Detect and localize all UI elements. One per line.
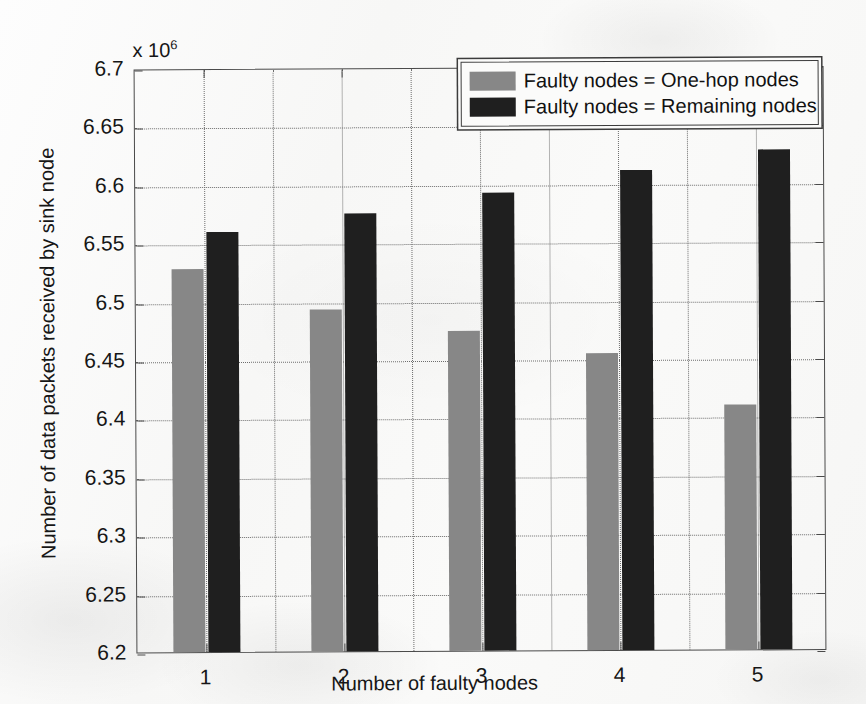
y-axis-tick-mark: [137, 654, 145, 655]
y-axis-exponent: x 106: [132, 37, 177, 62]
x-axis-tick-label: 4: [579, 663, 659, 687]
x-axis-tick-label: 5: [717, 662, 797, 686]
chart-canvas: x 106 Number of data packets received by…: [0, 0, 866, 704]
y-axis-tick-mark: [137, 538, 145, 539]
y-axis-tick-label: 6.7: [52, 56, 124, 80]
y-axis-tick-mark: [137, 479, 145, 480]
y-axis-tick-mark: [136, 362, 144, 363]
y-axis-tick-mark: [135, 187, 143, 188]
y-axis-tick-mark: [816, 359, 824, 360]
y-axis-tick-mark: [815, 242, 823, 243]
y-axis-tick-mark: [817, 593, 825, 594]
x-axis-tick-labels: 12345: [0, 0, 864, 2]
bar: [344, 213, 378, 651]
x-axis-tick-label: 1: [165, 665, 245, 689]
legend: Faulty nodes = One-hop nodes Faulty node…: [461, 60, 819, 127]
gridline-horizontal: [136, 417, 824, 421]
bar: [757, 149, 791, 649]
y-axis-tick-mark: [815, 184, 823, 185]
x-axis-tick-mark: [204, 70, 205, 78]
legend-label-one-hop-nodes: Faulty nodes = One-hop nodes: [524, 69, 799, 90]
y-axis-tick-mark: [815, 125, 823, 126]
bar: [206, 231, 240, 652]
y-axis-tick-label: 6.5: [53, 290, 125, 314]
y-axis-tick-mark: [816, 301, 824, 302]
bar: [585, 353, 618, 650]
gridline-horizontal: [135, 184, 823, 188]
gridline-horizontal: [137, 476, 825, 480]
y-axis-exponent-power: 6: [170, 37, 177, 52]
y-axis-tick-mark: [136, 304, 144, 305]
y-axis-tick-mark: [816, 417, 824, 418]
x-axis-tick-mark: [342, 69, 343, 77]
y-axis-tick-label: 6.55: [52, 232, 124, 256]
y-axis-tick-label: 6.3: [54, 524, 126, 548]
y-axis-tick-mark: [817, 534, 825, 535]
y-axis-tick-label: 6.65: [52, 115, 124, 139]
y-axis-tick-mark: [135, 246, 143, 247]
bar: [620, 170, 654, 650]
x-axis-tick-label: 2: [303, 664, 383, 688]
y-axis-tick-label: 6.45: [53, 348, 125, 372]
legend-item-1: Faulty nodes = Remaining nodes: [470, 92, 810, 120]
y-axis-tick-mark: [137, 596, 145, 597]
plot-area: [134, 66, 827, 653]
bar: [447, 331, 481, 651]
legend-label-remaining-nodes: Faulty nodes = Remaining nodes: [524, 95, 817, 116]
legend-swatch-one-hop-nodes: [470, 71, 516, 90]
bar: [724, 404, 757, 649]
bar: [309, 309, 343, 651]
y-axis-tick-label: 6.4: [53, 407, 125, 431]
legend-item-0: Faulty nodes = One-hop nodes: [470, 66, 810, 94]
y-axis-tick-mark: [136, 421, 144, 422]
bar: [171, 269, 205, 652]
bar: [482, 193, 516, 651]
gridline-horizontal: [137, 593, 825, 597]
y-axis-tick-labels: 6.26.256.36.356.46.456.56.556.66.656.7: [0, 0, 864, 2]
y-axis-tick-mark: [817, 651, 825, 652]
y-axis-tick-mark: [817, 476, 825, 477]
gridline-horizontal: [135, 242, 823, 246]
x-axis-tick-label: 3: [441, 664, 521, 688]
y-axis-tick-mark: [135, 129, 143, 130]
y-axis-tick-mark: [135, 70, 143, 71]
legend-swatch-remaining-nodes: [470, 97, 516, 116]
y-axis-tick-label: 6.6: [52, 173, 124, 197]
y-axis-tick-label: 6.2: [54, 640, 126, 664]
y-axis-exponent-base: x 10: [132, 39, 170, 61]
y-axis-tick-label: 6.25: [54, 582, 126, 606]
y-axis-tick-label: 6.35: [54, 465, 126, 489]
